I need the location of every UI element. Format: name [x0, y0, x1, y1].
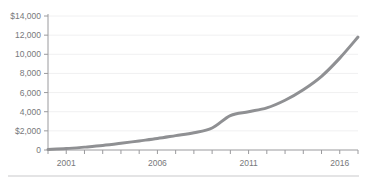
y-axis-tick-label: $14,000: [10, 11, 41, 21]
y-axis-ticks-group: [44, 16, 48, 150]
x-axis-ticks-group: [48, 150, 358, 154]
y-axis-labels-group: 0$2,0004,0006,0008,00010,00012,000$14,00…: [10, 11, 41, 155]
y-axis-tick-label: 10,000: [15, 49, 41, 59]
x-axis-tick-label: 2011: [239, 158, 258, 168]
y-axis-tick-label: 6,000: [20, 88, 42, 98]
y-axis-tick-label: 0: [36, 145, 41, 155]
x-axis-tick-label: 2001: [57, 158, 76, 168]
line-chart: 0$2,0004,0006,0008,00010,00012,000$14,00…: [0, 0, 367, 184]
gridlines-group: [48, 16, 358, 131]
x-axis-tick-label: 2016: [330, 158, 349, 168]
y-axis-tick-label: 8,000: [20, 68, 42, 78]
y-axis-tick-label: 4,000: [20, 107, 42, 117]
y-axis-tick-label: $2,000: [15, 126, 41, 136]
x-axis-labels-group: 2001200620112016: [57, 158, 350, 168]
chart-container: 0$2,0004,0006,0008,00010,00012,000$14,00…: [0, 0, 367, 184]
y-axis-tick-label: 12,000: [15, 30, 41, 40]
x-axis-tick-label: 2006: [148, 158, 167, 168]
